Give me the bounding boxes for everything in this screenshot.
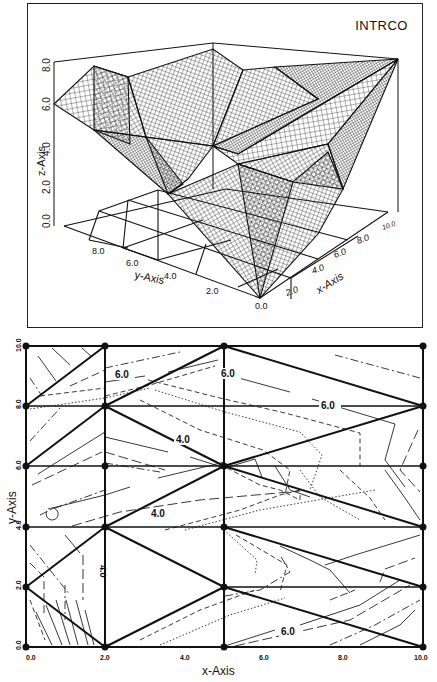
chart-title: INTRCO: [355, 18, 408, 33]
x-tick: 6.0: [259, 654, 269, 661]
z-axis: 0.0 2.0 4.0 6.0 8.0 z-Axis: [35, 58, 52, 228]
contour-label: 4.0: [98, 565, 108, 578]
contour-label: 6.0: [281, 626, 295, 637]
y-tick: 2.0: [206, 286, 219, 296]
z-tick: 0.0: [41, 214, 52, 228]
y-tick: 6.0: [126, 258, 139, 268]
x-tick: 10.0: [414, 654, 428, 661]
y-tick: 10.0: [15, 338, 22, 352]
y-axis-label: y-Axis: [5, 491, 19, 524]
x-tick: 2.0: [283, 284, 299, 298]
y-axis: 0.0 2.0 4.0 6.0 8.0 10.0 y-Axis: [5, 338, 22, 650]
z-axis-label: z-Axis: [35, 146, 47, 176]
y-tick: 2.0: [15, 580, 22, 590]
x-tick: 2.0: [100, 654, 110, 661]
contour-label: 6.0: [221, 368, 235, 379]
x-tick: 8.0: [355, 232, 370, 246]
z-tick: 6.0: [41, 97, 52, 111]
contour-label: 6.0: [321, 400, 335, 411]
surface-plot: 0.0 2.0 4.0 6.0 8.0 z-Axis 8.0 6.0 4.0 2…: [28, 4, 424, 329]
x-tick: 4.0: [180, 654, 190, 661]
y-tick: 8.0: [92, 246, 105, 256]
x-tick: 0.0: [26, 654, 36, 661]
x-tick: 8.0: [338, 654, 348, 661]
y-tick: 8.0: [15, 399, 22, 409]
z-tick: 2.0: [41, 180, 52, 194]
contour-plot-panel: 6.0 6.0 6.0 4.0 4.0 6.0 4.0 0.0 2.0 4.0 …: [0, 335, 437, 682]
y-tick: 0.0: [255, 301, 268, 311]
surface-mesh: [54, 49, 398, 298]
y-tick: 0.0: [15, 640, 22, 650]
x-axis-label: x-Axis: [202, 664, 235, 678]
contour-label: 4.0: [151, 508, 165, 519]
x-axis: 0.0 2.0 4.0 6.0 8.0 10.0 x-Axis: [26, 654, 428, 678]
y-tick: 4.0: [164, 271, 177, 281]
contour-label: 4.0: [176, 434, 190, 445]
triangulation: [26, 346, 423, 647]
y-tick: 6.0: [15, 460, 22, 470]
surface-plot-panel: INTRCO: [27, 3, 423, 328]
y-axis-label: y-Axis: [134, 268, 166, 286]
x-tick: 10.0: [381, 220, 396, 231]
contour-label: 6.0: [115, 369, 129, 380]
contour-plot: 6.0 6.0 6.0 4.0 4.0 6.0 4.0 0.0 2.0 4.0 …: [0, 335, 437, 682]
z-tick: 8.0: [41, 58, 52, 72]
